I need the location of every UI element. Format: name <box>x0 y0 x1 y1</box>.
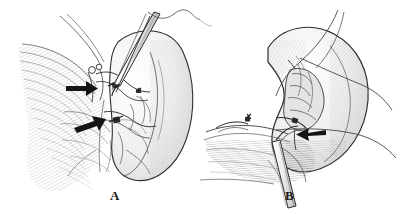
surgical-figure: A B <box>0 0 402 214</box>
panel-label-a: A <box>110 188 120 204</box>
panel-label-b: B <box>285 188 294 204</box>
illustration-canvas <box>0 0 402 214</box>
